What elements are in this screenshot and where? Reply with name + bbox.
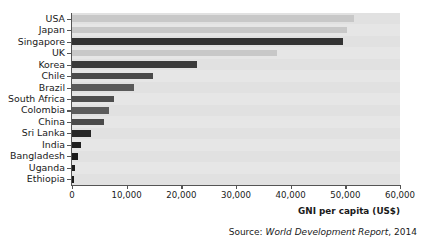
y-tick: [67, 156, 71, 157]
x-tick-mark: [345, 185, 346, 189]
bar-chile: [72, 73, 153, 80]
y-tick: [67, 133, 71, 134]
y-tick: [67, 76, 71, 77]
x-tick-mark: [291, 185, 292, 189]
y-label-chile: Chile: [42, 71, 65, 80]
x-tick-label-10000: 10,000: [102, 190, 152, 200]
bar-uganda: [72, 165, 75, 172]
bar-japan: [72, 27, 347, 34]
y-tick: [67, 99, 71, 100]
y-tick: [67, 88, 71, 89]
source-prefix: Source:: [229, 227, 266, 237]
y-label-brazil: Brazil: [39, 83, 65, 92]
bar-korea: [72, 61, 197, 68]
x-axis-title: GNI per capita (US$): [298, 206, 400, 216]
y-tick: [67, 122, 71, 123]
y-tick: [67, 42, 71, 43]
bar-colombia: [72, 107, 109, 114]
bar-singapore: [72, 38, 343, 45]
y-label-korea: Korea: [38, 60, 65, 69]
bar-brazil: [72, 84, 134, 91]
bar-ethiopia: [72, 176, 74, 183]
y-tick: [67, 168, 71, 169]
y-label-china: China: [38, 117, 65, 126]
y-label-uk: UK: [52, 48, 65, 57]
source-note: Source: World Development Report, 2014: [229, 227, 417, 237]
bar-uk: [72, 50, 277, 57]
x-tick-label-40000: 40,000: [266, 190, 316, 200]
x-tick-label-20000: 20,000: [156, 190, 206, 200]
y-label-south-africa: South Africa: [8, 94, 65, 103]
bar-sri-lanka: [72, 130, 91, 137]
x-tick-mark: [127, 185, 128, 189]
y-label-japan: Japan: [39, 25, 65, 34]
x-tick-mark: [72, 185, 73, 189]
source-suffix: , 2014: [388, 227, 417, 237]
y-label-india: India: [42, 140, 65, 149]
plot-band: [72, 174, 400, 185]
y-tick: [67, 179, 71, 180]
y-tick: [67, 53, 71, 54]
y-label-usa: USA: [46, 14, 65, 23]
y-axis-labels: USAJapanSingaporeUKKoreaChileBrazilSouth…: [0, 0, 65, 243]
y-tick: [67, 65, 71, 66]
plot-band: [72, 128, 400, 139]
y-label-ethiopia: Ethiopia: [27, 174, 65, 183]
y-tick: [67, 19, 71, 20]
y-label-colombia: Colombia: [21, 105, 65, 114]
x-tick-label-30000: 30,000: [211, 190, 261, 200]
source-title: World Development Report: [265, 227, 388, 237]
x-tick-label-60000: 60,000: [375, 190, 425, 200]
y-label-singapore: Singapore: [18, 37, 65, 46]
y-label-uganda: Uganda: [29, 163, 65, 172]
y-label-sri-lanka: Sri Lanka: [22, 128, 65, 137]
x-tick-label-50000: 50,000: [320, 190, 370, 200]
y-tick: [67, 30, 71, 31]
chart-figure: USAJapanSingaporeUKKoreaChileBrazilSouth…: [0, 0, 425, 243]
x-tick-mark: [236, 185, 237, 189]
x-tick-mark: [400, 185, 401, 189]
y-tick: [67, 145, 71, 146]
bar-south-africa: [72, 96, 114, 103]
x-tick-label-0: 0: [47, 190, 97, 200]
bar-china: [72, 119, 104, 126]
bar-india: [72, 142, 81, 149]
y-tick: [67, 110, 71, 111]
bar-bangladesh: [72, 153, 78, 160]
plot-band: [72, 151, 400, 162]
plot-band: [72, 105, 400, 116]
x-tick-mark: [181, 185, 182, 189]
bar-usa: [72, 15, 354, 22]
y-label-bangladesh: Bangladesh: [10, 151, 65, 160]
